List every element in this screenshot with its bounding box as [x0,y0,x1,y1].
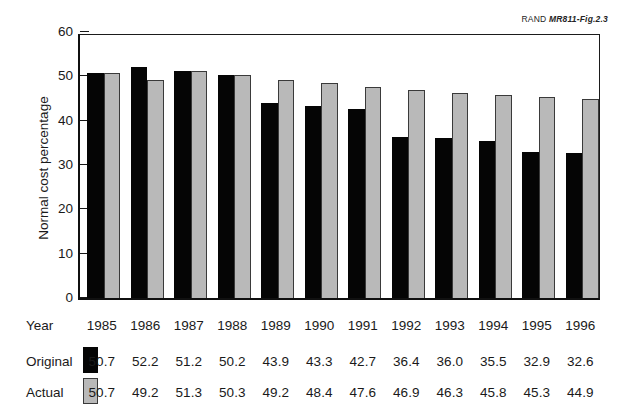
y-axis-title: Normal cost percentage [34,35,54,301]
table-values-original: 50.752.251.250.243.943.342.736.436.035.5… [78,352,600,372]
table-cell-original-1988: 50.2 [211,352,255,372]
bar-actual-1986 [147,80,164,298]
bar-group [305,35,338,298]
figure-id-label: RAND MR811-Fig.2.3 [521,14,608,24]
bar-actual-1987 [191,71,208,298]
bar-original-1994 [479,141,496,298]
x-axis-label-1989: 1989 [254,316,298,336]
table-cell-actual-1990: 48.4 [298,383,342,403]
bar-actual-1993 [452,93,469,298]
table-cell-original-1985: 50.7 [80,352,124,372]
table-cell-actual-1995: 45.3 [515,383,559,403]
figure-id-organization: RAND [521,14,546,24]
bar-group [348,35,381,298]
table-row-label-actual: Actual [26,383,64,403]
bar-group [522,35,555,298]
x-axis-label-1988: 1988 [211,316,255,336]
bar-original-1986 [131,67,148,298]
table-cell-actual-1996: 44.9 [559,383,603,403]
bar-original-1995 [522,152,539,298]
figure-id-code: MR811-Fig.2.3 [549,14,608,24]
x-axis-label-1992: 1992 [385,316,429,336]
x-axis-year-labels: 1985198619871988198919901991199219931994… [78,316,600,336]
table-row-label-original: Original [26,352,73,372]
table-cell-original-1992: 36.4 [385,352,429,372]
y-axis-tick-label: 30 [58,156,73,174]
x-axis-label-1990: 1990 [298,316,342,336]
x-axis-label-1986: 1986 [124,316,168,336]
bar-actual-1996 [582,99,599,298]
y-axis-tick-label: 40 [58,112,73,130]
bar-actual-1988 [234,75,251,298]
table-values-actual: 50.749.251.350.349.248.447.646.946.345.8… [78,383,600,403]
bars-layer [80,35,599,298]
bar-original-1987 [174,71,191,298]
bar-original-1985 [87,73,104,298]
table-cell-actual-1985: 50.7 [80,383,124,403]
table-cell-original-1996: 32.6 [559,352,603,372]
table-cell-actual-1987: 51.3 [167,383,211,403]
table-cell-original-1994: 35.5 [472,352,516,372]
x-axis-label-1991: 1991 [341,316,385,336]
bar-original-1992 [392,137,409,298]
bar-group [261,35,294,298]
bar-group [479,35,512,298]
bar-group [174,35,207,298]
y-axis-tick-label: 10 [58,245,73,263]
bar-group [131,35,164,298]
table-cell-original-1986: 52.2 [124,352,168,372]
bar-original-1989 [261,103,278,298]
table-cell-actual-1991: 47.6 [341,383,385,403]
bar-actual-1985 [104,73,121,298]
x-axis-label-1993: 1993 [428,316,472,336]
table-cell-actual-1986: 49.2 [124,383,168,403]
y-axis-tick-label: 20 [58,200,73,218]
table-cell-original-1995: 32.9 [515,352,559,372]
bar-actual-1989 [278,80,295,298]
bar-group [87,35,120,298]
x-axis-label-1996: 1996 [559,316,603,336]
bar-actual-1991 [365,87,382,298]
x-axis-label-1985: 1985 [80,316,124,336]
table-cell-original-1993: 36.0 [428,352,472,372]
bar-actual-1990 [321,83,338,298]
x-axis-label-1995: 1995 [515,316,559,336]
table-cell-actual-1993: 46.3 [428,383,472,403]
table-cell-actual-1989: 49.2 [254,383,298,403]
bar-original-1990 [305,106,322,298]
bar-actual-1995 [539,97,556,298]
bar-original-1991 [348,109,365,298]
bar-group [392,35,425,298]
bar-group [435,35,468,298]
bar-original-1993 [435,138,452,298]
table-cell-original-1989: 43.9 [254,352,298,372]
table-cell-actual-1988: 50.3 [211,383,255,403]
table-cell-actual-1992: 46.9 [385,383,429,403]
table-cell-original-1990: 43.3 [298,352,342,372]
x-axis-label-1994: 1994 [472,316,516,336]
x-axis-label-1987: 1987 [167,316,211,336]
table-row-label-year: Year [26,316,53,336]
bar-actual-1992 [408,90,425,298]
bar-original-1988 [218,75,235,298]
bar-original-1996 [566,153,583,298]
table-cell-original-1991: 42.7 [341,352,385,372]
bar-group [218,35,251,298]
table-cell-original-1987: 51.2 [167,352,211,372]
y-axis-tick: 60 [80,31,89,32]
table-cell-actual-1994: 45.8 [472,383,516,403]
bar-actual-1994 [495,95,512,298]
y-axis-tick-label: 50 [58,67,73,85]
y-axis-tick-label: 60 [58,23,73,41]
y-axis-tick-label: 0 [65,289,73,307]
bar-group [566,35,599,298]
chart-plot-area: Normal cost percentage 0102030405060 [78,34,600,300]
